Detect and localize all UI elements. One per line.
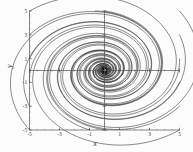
trajectory-curve bbox=[57, 35, 185, 120]
x-tick-label: 5 bbox=[178, 131, 181, 137]
x-tick-label: -5 bbox=[27, 131, 32, 137]
y-tick-label: -5 bbox=[23, 127, 28, 133]
plot-canvas: -5-3-1135-5-3-1135 bbox=[0, 0, 193, 152]
y-axis-label: y bbox=[5, 64, 14, 68]
y-tick-label: 1 bbox=[24, 56, 27, 62]
y-tick-label: 5 bbox=[24, 8, 27, 14]
x-axis-label: x bbox=[93, 139, 97, 148]
x-tick-label: -1 bbox=[87, 131, 92, 137]
x-tick-label: 3 bbox=[148, 131, 151, 137]
phase-portrait-figure: -5-3-1135-5-3-1135 x y bbox=[0, 0, 193, 152]
y-tick-label: 3 bbox=[24, 32, 27, 38]
y-tick-label: -1 bbox=[23, 79, 28, 85]
y-tick-label: -3 bbox=[23, 103, 28, 109]
x-tick-label: -3 bbox=[57, 131, 62, 137]
trajectory-group bbox=[10, 0, 193, 145]
axes-group bbox=[30, 11, 180, 130]
x-tick-label: 1 bbox=[118, 131, 121, 137]
